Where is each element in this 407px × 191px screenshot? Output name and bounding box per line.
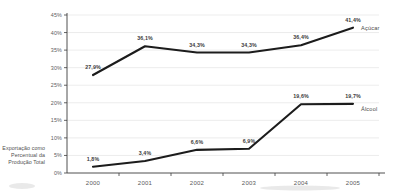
data-label: 27,9% (85, 64, 101, 70)
y-tick-label: 5% (54, 152, 62, 158)
y-tick-label: 15% (51, 117, 62, 123)
data-label: 41,4% (345, 17, 361, 23)
y-axis-title-line-3: Produção Total (8, 159, 45, 165)
data-label: 34,3% (189, 42, 205, 48)
y-axis-title-line-2: Percentual da (11, 152, 45, 158)
x-tick-label: 2001 (138, 180, 153, 186)
chart-container: 0%5%10%15%20%25%30%35%40%45% 20002001200… (0, 0, 407, 191)
series-name-açúcar: Açúcar (361, 25, 380, 31)
data-label: 19,6% (293, 93, 309, 99)
data-label: 36,1% (137, 35, 153, 41)
x-tick-label: 2000 (86, 180, 101, 186)
data-label: 6,9% (243, 138, 256, 144)
data-label: 34,3% (241, 42, 257, 48)
y-tick-label: 25% (51, 82, 62, 88)
y-tick-label: 0% (54, 170, 62, 176)
x-tick-label: 2002 (190, 180, 205, 186)
y-tick-label: 40% (51, 30, 62, 36)
y-tick-label: 10% (51, 135, 62, 141)
x-tick-label: 2005 (346, 180, 361, 186)
y-tick-label: 30% (51, 65, 62, 71)
y-tick-label: 45% (51, 12, 62, 18)
data-label: 19,7% (345, 93, 361, 99)
y-tick-label: 35% (51, 47, 62, 53)
data-label: 6,6% (191, 139, 204, 145)
data-label: 3,4% (139, 150, 152, 156)
line-chart: 0%5%10%15%20%25%30%35%40%45% 20002001200… (0, 0, 407, 191)
y-tick-label: 20% (51, 100, 62, 106)
series-name-álcool: Álcool (361, 106, 377, 112)
x-tick-label: 2003 (242, 180, 257, 186)
data-label: 36,4% (293, 34, 309, 40)
y-axis-title-line-1: Exportação como (2, 145, 45, 151)
x-tick-label: 2004 (294, 180, 309, 186)
data-label: 1,8% (87, 156, 100, 162)
